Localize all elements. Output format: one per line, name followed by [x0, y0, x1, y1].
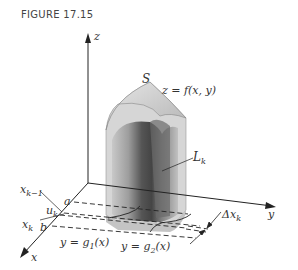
xk-label: xk	[22, 218, 33, 233]
x-axis-label: x	[31, 251, 37, 264]
y-axis-label: y	[268, 208, 274, 221]
g1-label: y = g1(x)	[60, 236, 109, 251]
surface-equation: z = f(x, y)	[162, 84, 216, 97]
uk-label: uk	[46, 204, 58, 219]
b-label: b	[40, 221, 47, 234]
delta-x-label: Δxk	[222, 208, 241, 223]
z-axis	[85, 33, 91, 183]
surface-label: S	[142, 72, 150, 86]
a-label: a	[64, 195, 71, 208]
g2-label: y = g2(x)	[121, 240, 170, 255]
xk-minus-1-label: xk−1	[20, 183, 43, 198]
delta-x-arrows	[190, 212, 221, 244]
z-axis-label: z	[94, 30, 100, 43]
lk-label: Lk	[193, 150, 206, 166]
